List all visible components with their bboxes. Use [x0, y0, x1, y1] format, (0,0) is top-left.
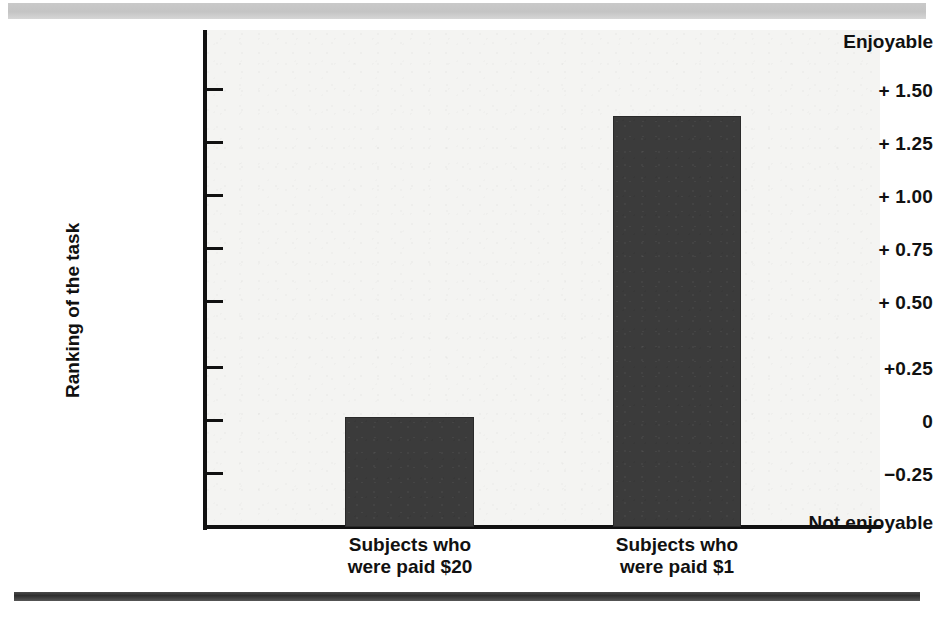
bar-subjects-paid-20	[345, 417, 474, 527]
y-tick-label-1.50: + 1.50	[737, 81, 933, 100]
plot-area	[206, 30, 880, 527]
y-tick-mark-0	[207, 419, 223, 422]
y-tick-mark-1.50	[207, 88, 223, 91]
x-category-label-paid-20: Subjects who were paid $20	[280, 534, 540, 579]
x-category-label-line1: Subjects who	[280, 534, 540, 556]
y-tick-label-0.50: + 0.50	[737, 293, 933, 312]
y-tick-label-0.25: +0.25	[737, 359, 933, 378]
top-decorative-band	[8, 3, 926, 19]
x-category-label-line1: Subjects who	[547, 534, 807, 556]
y-tick-mark-0.50	[207, 300, 223, 303]
x-category-label-line2: were paid $1	[547, 556, 807, 578]
y-tick-label-neg0.25: −0.25	[737, 465, 933, 484]
bar-subjects-paid-1	[613, 116, 741, 527]
y-axis-endcap-top: Enjoyable	[737, 32, 933, 51]
y-axis-endcap-bottom: Not enjoyable	[737, 513, 933, 532]
figure-container: Enjoyable Not enjoyable + 1.50 + 1.25 + …	[0, 0, 933, 619]
y-tick-label-1.25: + 1.25	[737, 134, 933, 153]
y-tick-label-0: 0	[737, 412, 933, 431]
y-axis-line	[203, 30, 207, 530]
y-tick-mark-1.25	[207, 141, 223, 144]
paper-grain-texture	[206, 30, 880, 527]
y-tick-mark-1.00	[207, 194, 223, 197]
bottom-decorative-rule	[14, 592, 920, 601]
x-category-label-paid-1: Subjects who were paid $1	[547, 534, 807, 579]
bar-grain-texture	[346, 418, 473, 526]
y-tick-label-1.00: + 1.00	[737, 187, 933, 206]
y-tick-mark-0.25	[207, 366, 223, 369]
y-tick-label-0.75: + 0.75	[737, 240, 933, 259]
bar-grain-texture	[614, 117, 740, 526]
y-tick-mark-0.75	[207, 247, 223, 250]
x-category-label-line2: were paid $20	[280, 556, 540, 578]
y-axis-title: Ranking of the task	[62, 128, 84, 398]
y-tick-mark-neg0.25	[207, 472, 223, 475]
